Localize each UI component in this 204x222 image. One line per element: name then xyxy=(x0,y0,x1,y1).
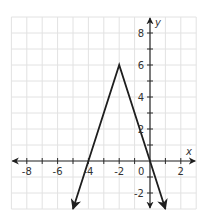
y-tick-label: 8 xyxy=(138,28,144,39)
y-tick-label: -2 xyxy=(134,188,144,199)
x-tick-label: -4 xyxy=(83,166,93,177)
x-tick-label: -2 xyxy=(114,166,124,177)
x-tick-label: 2 xyxy=(178,166,184,177)
y-tick-label: 2 xyxy=(138,124,144,135)
origin-label: 0 xyxy=(138,166,144,177)
y-axis-label: y xyxy=(154,17,162,28)
y-tick-label: 6 xyxy=(138,60,144,71)
x-axis-label: x xyxy=(185,146,192,157)
y-tick-label: 4 xyxy=(138,92,144,103)
x-tick-label: -6 xyxy=(53,166,63,177)
coordinate-plane: -8-6-4-228642-2 x y 0 xyxy=(0,0,204,222)
x-tick-label: -8 xyxy=(22,166,32,177)
